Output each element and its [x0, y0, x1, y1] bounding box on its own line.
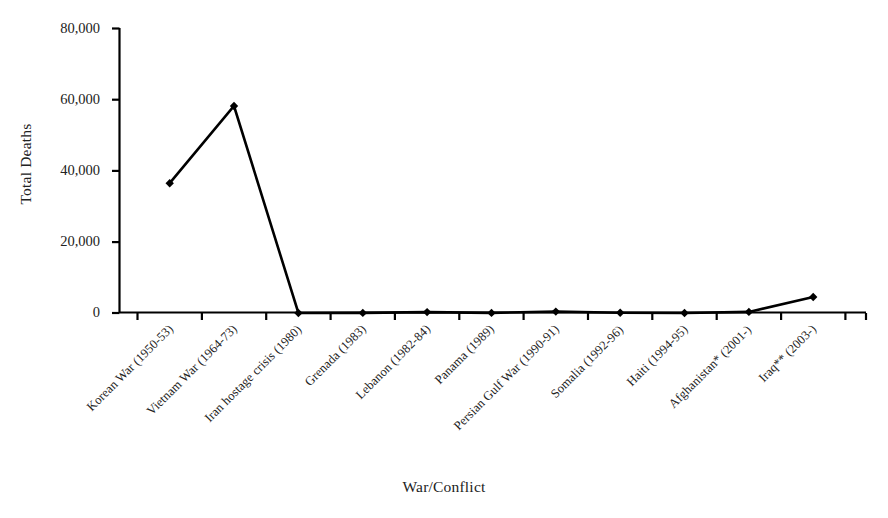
x-axis-category-labels: Korean War (1950-53)Vietnam War (1964-73… — [0, 0, 888, 518]
x-tick-label: Panama (1989) — [432, 322, 498, 388]
x-tick-label: Iraq** (2003-) — [756, 322, 820, 386]
x-tick-label: Persian Gulf War (1990-91) — [451, 322, 563, 434]
x-tick-label: Grenada (1983) — [302, 322, 370, 390]
x-tick-label: Haiti (1994-95) — [624, 322, 691, 389]
x-axis-title: War/Conflict — [0, 478, 888, 496]
chart-figure: Total Deaths 80,000 60,000 40,000 20,000… — [0, 0, 888, 518]
